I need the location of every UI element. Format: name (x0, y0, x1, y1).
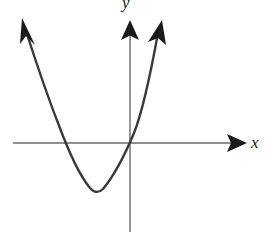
graph-figure: x y (0, 0, 272, 232)
y-axis-label: y (122, 0, 130, 11)
x-axis-label: x (251, 134, 259, 151)
parabola-left-arrowhead-icon (20, 18, 35, 45)
parabola-curve (26, 31, 158, 192)
graph-canvas (0, 0, 272, 232)
